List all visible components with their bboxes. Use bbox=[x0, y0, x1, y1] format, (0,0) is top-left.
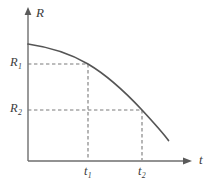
t2-subscript: 2 bbox=[142, 171, 146, 180]
r2-subscript: 2 bbox=[18, 108, 22, 117]
y-axis-arrowhead bbox=[25, 7, 32, 15]
t1-subscript: 1 bbox=[88, 171, 92, 180]
t1-tick-label: t1 bbox=[84, 165, 91, 178]
r1-tick-label: R1 bbox=[10, 56, 22, 69]
r1-subscript: 1 bbox=[18, 62, 22, 71]
t2-tick-label: t2 bbox=[138, 165, 145, 178]
y-axis-label: R bbox=[36, 6, 44, 19]
x-axis-label: t bbox=[199, 153, 203, 166]
resistance-vs-time-figure: R t R1 R2 t1 t2 bbox=[0, 0, 214, 186]
r2-tick-label: R2 bbox=[10, 102, 22, 115]
graph-canvas bbox=[0, 0, 214, 186]
x-axis-arrowhead bbox=[183, 157, 192, 164]
resistance-curve bbox=[28, 44, 169, 141]
